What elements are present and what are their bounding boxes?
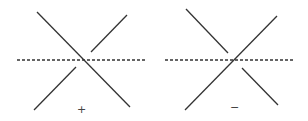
over-strand [185,16,277,110]
under-strand-lower [34,67,76,110]
positive-sign-label: + [77,103,86,116]
under-strand-upper [186,9,228,53]
under-strand-lower [242,68,278,105]
negative-crossing [165,9,295,110]
negative-sign-label: − [230,101,239,114]
positive-crossing [17,12,145,110]
crossing-diagrams [0,0,308,121]
under-strand-upper [91,15,127,52]
